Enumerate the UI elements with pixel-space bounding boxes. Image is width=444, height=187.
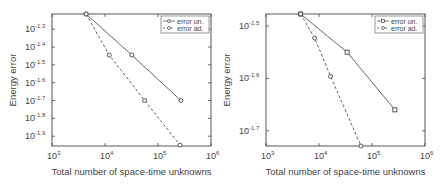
x-axis-label: Total number of space-time unknowns [266,166,426,177]
y-axis-label: Energy error [221,54,232,107]
y-tick-label: 10-1.9 [25,130,46,141]
x-tick-label: 106 [420,150,434,161]
y-tick-label: 10-1.5 [25,59,46,70]
y-tick-label: 10-1.4 [25,41,46,52]
data-point [84,12,88,16]
plot-area [52,14,211,146]
y-tick-label: 10-1.3 [25,23,46,34]
data-point [313,36,317,40]
legend: error un.error ad. [161,16,209,33]
data-point [178,143,182,147]
data-point [130,53,134,57]
x-tick-label: 104 [314,150,328,161]
plot-area [266,14,425,146]
data-point [143,99,147,103]
legend-entry: error ad. [391,25,418,32]
data-point [393,108,397,112]
legend-entry: error un. [391,18,418,25]
data-point [179,99,183,103]
y-tick-label: 10-1.5 [239,20,260,31]
y-tick-label: 10-1.6 [239,72,260,83]
data-point [299,12,303,16]
y-axis-label: Energy error [7,54,18,107]
x-tick-label: 104 [100,150,114,161]
legend: error un.error ad. [375,16,423,33]
x-tick-label: 103 [47,150,61,161]
data-point [345,50,349,54]
data-point [359,144,363,148]
legend-entry: error un. [177,18,204,25]
x-axis-label: Total number of space-time unknowns [52,166,212,177]
data-point [107,53,111,57]
x-tick-label: 105 [153,150,167,161]
y-tick-label: 10-1.7 [239,125,260,136]
data-point [329,74,333,78]
chart-1: 10310410510610-1.310-1.410-1.510-1.610-1… [7,12,220,177]
x-tick-label: 103 [261,150,275,161]
y-tick-label: 10-1.8 [25,112,46,123]
figure: 10310410510610-1.310-1.410-1.510-1.610-1… [0,0,444,187]
x-tick-label: 106 [206,150,220,161]
x-tick-label: 105 [367,150,381,161]
y-tick-label: 10-1.6 [25,77,46,88]
y-tick-label: 10-1.7 [25,95,46,106]
legend-entry: error ad. [177,25,204,32]
chart-2: 10310410510610-1.510-1.610-1.7Total numb… [221,12,434,177]
